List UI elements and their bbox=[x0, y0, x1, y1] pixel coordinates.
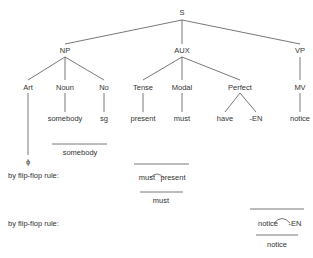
leaf-en: -EN bbox=[250, 114, 263, 123]
leaf-present: present bbox=[130, 114, 155, 123]
node-perfect: Perfect bbox=[228, 83, 252, 92]
rule1-result: must bbox=[153, 196, 169, 205]
leaf-somebody: somebody bbox=[48, 114, 83, 123]
node-art: Art bbox=[23, 83, 33, 92]
rule-label-2: by flip-flop rule: bbox=[8, 219, 59, 228]
rule2-left: notice bbox=[258, 219, 278, 228]
node-mv: MV bbox=[294, 83, 305, 92]
node-noun: Noun bbox=[56, 83, 74, 92]
node-tense: Tense bbox=[133, 83, 153, 92]
rule1-right: present bbox=[160, 173, 185, 182]
leaf-must: must bbox=[174, 114, 190, 123]
leaf-phi: ϕ bbox=[26, 157, 30, 166]
node-s: S bbox=[179, 8, 184, 17]
rule2-result: notice bbox=[267, 240, 287, 249]
rule-label-1: by flip-flop rule: bbox=[8, 171, 59, 180]
leaf-sg: sg bbox=[100, 114, 108, 123]
node-modal: Modal bbox=[172, 83, 192, 92]
node-vp: VP bbox=[295, 46, 305, 55]
rule2-right: -EN bbox=[289, 219, 302, 228]
np-merged: somebody bbox=[63, 148, 98, 157]
leaf-have: have bbox=[217, 114, 233, 123]
node-aux: AUX bbox=[174, 46, 189, 55]
node-no: No bbox=[99, 83, 109, 92]
node-np: NP bbox=[60, 46, 70, 55]
rule1-left: must bbox=[139, 173, 155, 182]
leaf-notice: notice bbox=[290, 114, 310, 123]
